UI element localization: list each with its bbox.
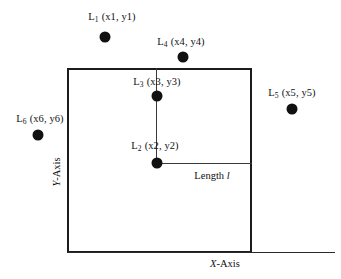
length-connector-line [157, 163, 252, 164]
label-L4-sub: 4 [164, 40, 168, 49]
label-L2: L2(x2, y2) [131, 140, 178, 153]
label-L5-coords: (x5, y5) [282, 87, 316, 98]
length-symbol: l [227, 170, 230, 181]
label-L2-sub: 2 [138, 144, 142, 153]
label-L5-sub: 5 [275, 91, 279, 100]
point-L3 [152, 91, 163, 102]
label-L4-coords: (x4, y4) [171, 36, 205, 47]
y-axis-label-suffix: -Axis [51, 157, 62, 180]
label-L2-base: L [131, 140, 138, 151]
point-L6 [33, 130, 44, 141]
label-L3-base: L [133, 76, 140, 87]
point-L1 [100, 32, 111, 43]
point-L5 [287, 104, 298, 115]
label-L6-sub: 6 [23, 117, 27, 126]
x-axis-line [67, 252, 335, 253]
label-L1-coords: (x1, y1) [102, 11, 136, 22]
label-L4-base: L [157, 36, 164, 47]
length-prefix: Length [194, 170, 226, 181]
label-L5: L5(x5, y5) [268, 87, 315, 100]
label-L1: L1(x1, y1) [88, 11, 135, 24]
diagram-canvas: L1(x1, y1) L2(x2, y2) L3(x3, y3) L4(x4, … [0, 0, 341, 279]
label-L3: L3(x3, y3) [133, 76, 180, 89]
label-L6-coords: (x6, y6) [30, 113, 64, 124]
label-L1-sub: 1 [95, 15, 99, 24]
y-axis-label-letter: Y [51, 181, 62, 187]
label-L6: L6(x6, y6) [16, 113, 63, 126]
label-L3-sub: 3 [140, 80, 144, 89]
label-L5-base: L [268, 87, 275, 98]
label-L1-base: L [88, 11, 95, 22]
label-L4: L4(x4, y4) [157, 36, 204, 49]
point-L2 [152, 158, 163, 169]
length-annotation: Length l [194, 170, 229, 181]
point-L4 [178, 52, 189, 63]
label-L3-coords: (x3, y3) [147, 76, 181, 87]
label-L2-coords: (x2, y2) [145, 140, 179, 151]
label-L6-base: L [16, 113, 23, 124]
y-axis-label: Y-Axis [51, 157, 62, 186]
x-axis-label: X-Axis [210, 258, 240, 269]
x-axis-label-suffix: -Axis [217, 258, 240, 269]
